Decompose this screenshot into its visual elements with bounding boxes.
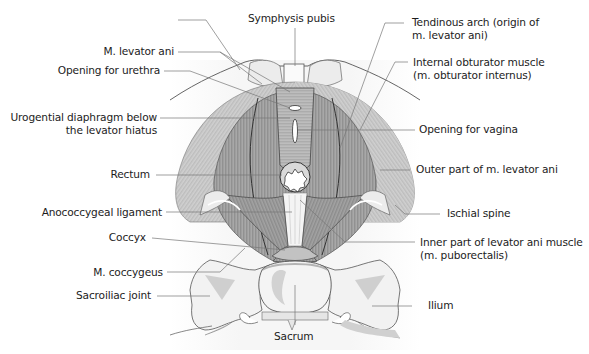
label-ischial-spine: Ischial spine — [447, 207, 510, 220]
label-internal-obturator: Internal obturator muscle (m. obturator … — [413, 56, 545, 82]
label-coccyx: Coccyx — [109, 231, 146, 244]
label-anococcygeal-ligament: Anococcygeal ligament — [42, 206, 162, 219]
label-m-coccygeus: M. coccygeus — [93, 266, 163, 279]
label-urogenital-diaphragm: Urogential diaphragm below the levator h… — [10, 111, 157, 137]
label-opening-vagina: Opening for vagina — [419, 123, 518, 136]
label-sacrum: Sacrum — [274, 330, 314, 343]
label-tendinous-arch: Tendinous arch (origin of m. levator ani… — [412, 16, 539, 42]
label-opening-urethra: Opening for urethra — [58, 64, 160, 77]
label-m-levator-ani: M. levator ani — [103, 45, 174, 58]
label-ilium: Ilium — [428, 299, 453, 312]
label-sacroiliac-joint: Sacroiliac joint — [76, 289, 151, 302]
label-rectum: Rectum — [110, 168, 150, 181]
opening-vagina — [293, 119, 298, 143]
opening-urethra — [289, 106, 301, 111]
label-symphysis-pubis: Symphysis pubis — [248, 12, 335, 25]
label-inner-levator-ani: Inner part of levator ani muscle (m. pub… — [420, 236, 583, 262]
label-outer-levator-ani: Outer part of m. levator ani — [416, 163, 558, 176]
